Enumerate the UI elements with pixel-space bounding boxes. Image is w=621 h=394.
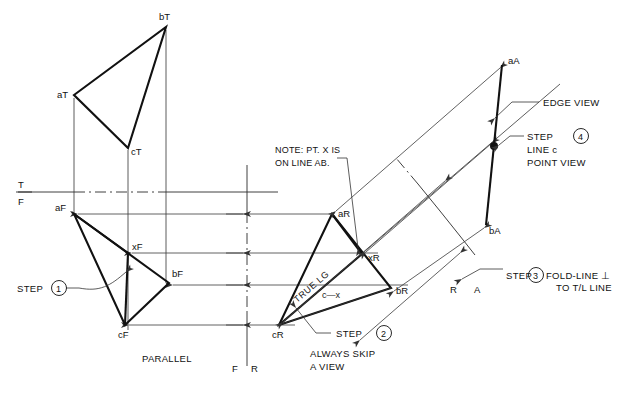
aux-projector-fold	[360, 253, 460, 340]
fold-ra-bottom	[460, 236, 475, 255]
note-line-1: NOTE: PT. X IS	[275, 145, 340, 155]
label-xR: xR	[368, 252, 380, 263]
step-3-text2: TO T/L LINE	[556, 282, 612, 293]
edge-view-leader	[495, 102, 539, 118]
step-4-text: LINE c	[527, 144, 557, 155]
top-view-triangle	[74, 27, 166, 148]
step-3-arrow	[462, 269, 503, 279]
step-1-leader	[52, 272, 127, 296]
label-cT: cT	[131, 146, 142, 157]
caption-always-skip-2: A VIEW	[310, 361, 345, 372]
label-cR: cR	[272, 329, 284, 340]
vertical-projectors	[74, 30, 166, 330]
label-bR: bR	[396, 285, 408, 296]
label-cF: cF	[118, 329, 129, 340]
fold-label-F: F	[18, 196, 24, 207]
aux-projector-a	[336, 68, 500, 211]
label-aT: aT	[57, 89, 68, 100]
step-2-label: STEP	[336, 328, 362, 339]
triangle-abc-top	[74, 27, 166, 148]
step-3-label: STEP	[506, 270, 532, 281]
step-4-number: 4	[578, 132, 583, 142]
fold-line-ra	[396, 158, 475, 255]
caption-always-skip-1: ALWAYS SKIP	[310, 348, 375, 359]
label-bA: bA	[489, 225, 501, 236]
step-4-label: STEP	[527, 131, 553, 142]
fold-ra-mid	[440, 211, 460, 236]
edge-view-arrow	[495, 102, 539, 118]
label-aA: aA	[508, 55, 520, 66]
fold-label-R: R	[251, 363, 258, 374]
note-line-2: ON LINE AB.	[275, 158, 330, 168]
label-bT: bT	[159, 11, 170, 22]
fold-label-F2: F	[232, 363, 238, 374]
step-4-arrow	[499, 136, 524, 145]
label-edge-view: EDGE VIEW	[543, 97, 600, 108]
fold-label-R2: R	[450, 284, 457, 295]
fold-label-A: A	[474, 284, 481, 295]
triangle-abc-front	[74, 214, 169, 325]
step-3-number: 3	[533, 271, 538, 281]
step-2-arrow	[296, 308, 331, 333]
aux-projector-b	[394, 228, 484, 291]
caption-parallel: PARALLEL	[142, 353, 192, 364]
fold-ra-dashed	[396, 158, 418, 184]
step-3-text: FOLD-LINE ⊥	[546, 270, 611, 281]
drawing-svg: aT bT cT aF xF bF cF aR xR bR cR aA bA T…	[0, 0, 621, 394]
step-1-number: 1	[56, 284, 61, 294]
label-aF: aF	[55, 202, 66, 213]
fold-label-T: T	[18, 179, 24, 190]
line-a-x-right	[332, 214, 362, 254]
technical-drawing-canvas: aT bT cT aF xF bF cF aR xR bR cR aA bA T…	[0, 0, 621, 394]
auxiliary-projectors	[283, 68, 500, 340]
aux-projector-c	[283, 181, 445, 322]
label-bF: bF	[172, 268, 183, 279]
label-xF: xF	[132, 241, 143, 252]
point-view-dot	[490, 142, 498, 150]
step-2-number: 2	[381, 329, 386, 339]
label-c-x: c—x	[322, 290, 341, 300]
step-1-label: STEP	[17, 283, 43, 294]
step-4-text2: POINT VIEW	[527, 157, 586, 168]
line-x-c-front	[125, 253, 128, 325]
front-view-triangle	[74, 214, 169, 325]
label-aR: aR	[338, 208, 350, 219]
